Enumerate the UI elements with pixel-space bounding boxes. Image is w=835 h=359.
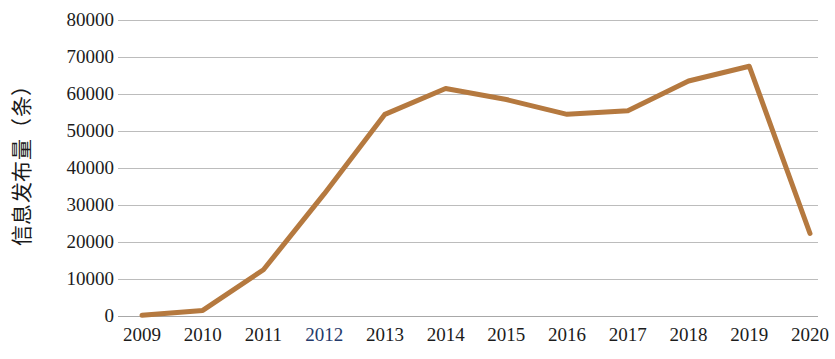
y-axis-tick-label: 80000 [34, 9, 114, 31]
x-axis-tick-label: 2016 [548, 324, 586, 346]
x-axis-tick-label: 2017 [609, 324, 647, 346]
y-axis-tick-label: 70000 [34, 46, 114, 68]
x-axis-tick-labels: 2009201020112012201320142015201620172018… [0, 324, 835, 359]
y-axis-tick-label: 20000 [34, 231, 114, 253]
y-axis-title-text: 信息发布量（条） [5, 74, 35, 246]
x-axis-tick-label: 2020 [791, 324, 829, 346]
line-chart: 信息发布量（条） 8000070000600005000040000300002… [0, 0, 835, 359]
y-axis-tick-label: 40000 [34, 157, 114, 179]
x-axis-tick-label: 2019 [730, 324, 768, 346]
x-axis-tick-label: 2012 [305, 324, 343, 346]
y-axis-tick-label: 30000 [34, 194, 114, 216]
x-axis-tick-label: 2018 [670, 324, 708, 346]
series-layer [118, 20, 818, 316]
series-line [142, 66, 810, 315]
x-axis-tick-label: 2013 [366, 324, 404, 346]
gridline [118, 316, 818, 317]
x-axis-tick-label: 2014 [427, 324, 465, 346]
plot-area [118, 20, 818, 316]
x-axis-tick-label: 2011 [245, 324, 282, 346]
y-axis-tick-labels: 8000070000600005000040000300002000010000… [34, 0, 114, 330]
x-axis-tick-label: 2010 [184, 324, 222, 346]
y-axis-tick-label: 10000 [34, 268, 114, 290]
x-axis-tick-label: 2015 [487, 324, 525, 346]
y-axis-tick-label: 50000 [34, 120, 114, 142]
x-axis-tick-label: 2009 [123, 324, 161, 346]
y-axis-tick-label: 60000 [34, 83, 114, 105]
